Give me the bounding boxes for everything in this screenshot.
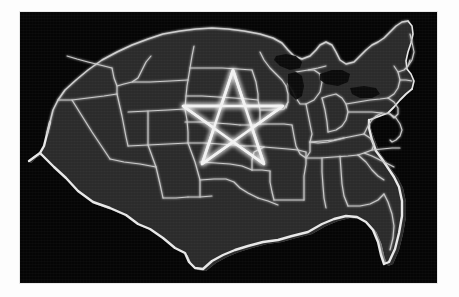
map-landmass xyxy=(29,21,414,271)
page-frame: United States map with pentagram overlay… xyxy=(0,0,459,297)
photo-canvas xyxy=(20,12,437,283)
us-map-illustration xyxy=(20,12,437,283)
